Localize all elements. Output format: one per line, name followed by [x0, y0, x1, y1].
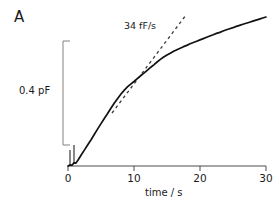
x-tick-label-0: 0 [65, 172, 72, 184]
panel-label: A [14, 8, 25, 26]
y-scalebar-bracket [63, 41, 70, 145]
capacitance-trace [68, 17, 266, 166]
x-axis-title: time / s [145, 187, 183, 198]
x-tick-label-10: 10 [127, 172, 140, 184]
figure-panel-a: A 0.4 pF 34 fF/s time / s 0102030 [0, 0, 280, 208]
slope-annotation-label: 34 fF/s [124, 20, 156, 31]
x-axis-ticks [68, 166, 266, 171]
x-tick-label-20: 20 [193, 172, 206, 184]
x-tick-label-30: 30 [259, 172, 272, 184]
y-scalebar-label: 0.4 pF [19, 85, 50, 96]
